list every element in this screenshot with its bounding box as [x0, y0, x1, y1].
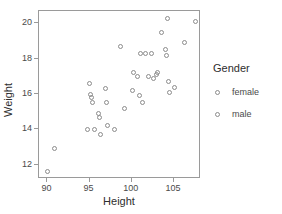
y-axis-tick-label: 18: [16, 53, 32, 63]
scatter-plot-figure: 90951001051214161820 Height Weight Gende…: [0, 0, 282, 214]
legend: Gender female male: [213, 62, 281, 128]
data-point: [172, 85, 177, 90]
legend-item-male[interactable]: male: [213, 106, 281, 122]
data-point: [85, 127, 90, 132]
data-point: [155, 70, 160, 75]
data-point: [105, 123, 110, 128]
data-point: [118, 44, 123, 49]
y-axis-tick: [34, 58, 38, 59]
y-axis-tick-label: 20: [16, 17, 32, 27]
plot-area: [38, 10, 200, 178]
x-axis-tick: [89, 178, 90, 182]
data-point: [97, 115, 102, 120]
data-point: [182, 40, 187, 45]
y-axis-tick: [34, 22, 38, 23]
x-axis-tick-label: 100: [123, 183, 138, 193]
x-axis-tick: [173, 178, 174, 182]
data-point: [165, 16, 170, 21]
y-axis-tick: [34, 164, 38, 165]
y-axis-tick-label: 16: [16, 88, 32, 98]
data-point: [164, 53, 169, 58]
data-point: [140, 100, 145, 105]
y-axis-tick-label: 12: [16, 159, 32, 169]
legend-title: Gender: [213, 62, 281, 74]
x-axis-tick-label: 95: [84, 183, 94, 193]
legend-item-label: female: [232, 87, 259, 97]
data-point: [112, 127, 117, 132]
data-point: [166, 79, 171, 84]
data-point: [52, 146, 57, 151]
data-point: [143, 51, 148, 56]
legend-item-label: male: [232, 109, 252, 119]
open-circle-icon: [215, 90, 220, 95]
y-axis-tick-label: 14: [16, 123, 32, 133]
data-point: [98, 132, 103, 137]
data-point: [87, 81, 92, 86]
x-axis-tick: [46, 178, 47, 182]
data-point: [92, 127, 97, 132]
x-axis-tick: [131, 178, 132, 182]
legend-item-female[interactable]: female: [213, 84, 281, 100]
data-point: [159, 30, 164, 35]
data-point: [103, 86, 108, 91]
data-point: [104, 100, 109, 105]
data-point: [193, 19, 198, 24]
y-axis-label: Weight: [2, 70, 14, 130]
data-point: [167, 90, 172, 95]
y-axis-tick: [34, 128, 38, 129]
data-point: [122, 106, 127, 111]
x-axis-tick-label: 105: [165, 183, 180, 193]
data-point: [135, 74, 140, 79]
x-axis-tick-label: 90: [41, 183, 51, 193]
y-axis-tick: [34, 93, 38, 94]
data-point: [45, 169, 50, 174]
data-point: [89, 95, 94, 100]
data-point: [137, 93, 142, 98]
data-points-layer: [39, 11, 199, 177]
data-point: [130, 88, 135, 93]
x-axis-label: Height: [38, 195, 200, 207]
data-point: [163, 47, 168, 52]
data-point: [90, 100, 95, 105]
open-circle-icon: [215, 112, 220, 117]
data-point: [149, 51, 154, 56]
